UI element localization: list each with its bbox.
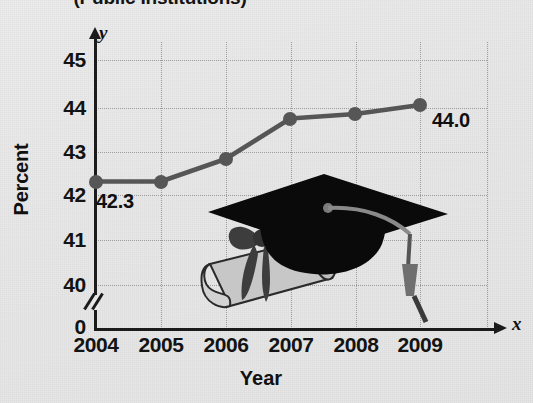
data-label-2004: 42.3 xyxy=(96,190,134,213)
data-point-2005[interactable] xyxy=(154,175,168,189)
graduation-cap-illustration xyxy=(196,172,456,330)
series-polyline xyxy=(96,105,420,182)
data-label-2009: 44.0 xyxy=(432,109,470,132)
data-point-2006[interactable] xyxy=(219,152,233,166)
data-point-2004[interactable] xyxy=(89,175,103,189)
data-point-2007[interactable] xyxy=(283,112,297,126)
data-point-2009[interactable] xyxy=(413,98,427,112)
